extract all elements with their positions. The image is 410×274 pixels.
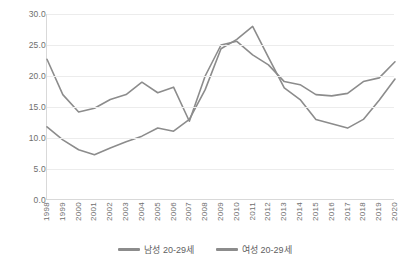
legend-item-label: 여성 20-29세 [242,243,292,256]
x-axis-tick-label: 2001 [89,202,98,221]
x-axis-tick-label: 2002 [105,202,114,221]
x-axis-tick-label: 1998 [42,202,51,221]
plot-area [46,14,394,200]
y-axis-tick-label: 10.0 [6,133,46,143]
x-axis-tick-label: 2003 [121,202,130,221]
gridline [47,14,394,15]
x-axis-tick-label: 2012 [263,202,272,221]
y-axis-tick-label: 25.0 [6,40,46,50]
x-axis-tick-label: 2000 [74,202,83,221]
x-axis-tick-label: 2008 [200,202,209,221]
x-axis-tick-label: 2013 [279,202,288,221]
x-axis-tick-label: 2014 [295,202,304,221]
x-axis-tick-label: 2011 [248,202,257,220]
y-axis-tick-label: 15.0 [6,102,46,112]
x-axis-tick-label: 2004 [137,202,146,221]
x-axis-tick-label: 2007 [184,202,193,221]
chart-legend: 남성 20-29세여성 20-29세 [0,243,410,256]
line-chart: 0.05.010.015.020.025.030.0 1998199920002… [0,0,410,274]
y-axis-tick-label: 20.0 [6,71,46,81]
series-line [47,41,395,121]
x-axis-tick-label: 2018 [358,202,367,221]
gridline [47,169,394,170]
x-axis-tick-label: 2009 [216,202,225,221]
x-axis-tick-label: 2015 [311,202,320,221]
legend-item-label: 남성 20-29세 [144,243,194,256]
y-axis-tick-label: 30.0 [6,9,46,19]
x-axis-tick-label: 1999 [58,202,67,221]
y-axis-tick-label: 5.0 [6,164,46,174]
x-axis: 1998199920002001200220032004200520062007… [46,202,394,240]
x-axis-tick-label: 2016 [327,202,336,221]
legend-swatch-icon [216,248,238,250]
legend-item[interactable]: 여성 20-29세 [216,243,292,256]
x-axis-tick-label: 2017 [343,202,352,221]
legend-swatch-icon [118,248,140,250]
gridline [47,138,394,139]
y-axis-tick-label: 0.0 [6,195,46,205]
gridline [47,107,394,108]
legend-item[interactable]: 남성 20-29세 [118,243,194,256]
x-axis-tick-label: 2005 [153,202,162,221]
x-axis-tick-label: 2020 [390,202,399,221]
x-axis-tick-label: 2019 [374,202,383,221]
x-axis-tick-label: 2010 [232,202,241,221]
gridline [47,76,394,77]
x-axis-tick-label: 2006 [169,202,178,221]
gridline [47,45,394,46]
